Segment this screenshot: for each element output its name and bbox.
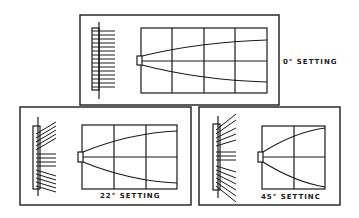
source-icon (258, 152, 263, 162)
panel-0-degree (80, 15, 279, 105)
emitter-array-icon (213, 114, 236, 202)
emitter-array-icon (33, 117, 56, 196)
diagram-canvas (0, 0, 359, 218)
label-0-degree-setting: 0° SETTING (283, 58, 338, 66)
coverage-grid (262, 126, 325, 189)
panel-22-degree (20, 107, 191, 205)
label-45-degree-setting: 45° SETTINC (261, 193, 321, 201)
beam-lower-edge (83, 162, 177, 183)
label-22-degree-setting: 22° SETTING (100, 192, 160, 200)
panel-frame (20, 107, 191, 205)
coverage-grid (141, 28, 267, 93)
source-icon (137, 56, 142, 65)
emitter-array-icon (92, 22, 115, 99)
beam-upper-edge (83, 131, 177, 152)
panel-45-degree (199, 107, 340, 205)
source-icon (78, 152, 83, 162)
coverage-grid (82, 125, 177, 189)
